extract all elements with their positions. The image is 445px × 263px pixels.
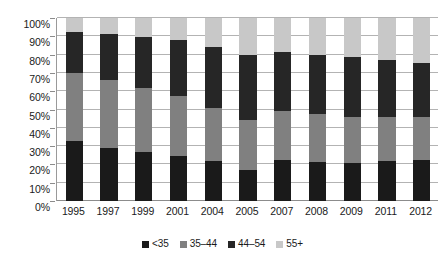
legend-item[interactable]: 35–44: [180, 239, 217, 249]
bar-segment: [170, 156, 187, 201]
stacked-bar-chart: 100%90%80%70%60%50%40%30%20%10%0% 199519…: [0, 0, 445, 263]
bar-segment: [205, 108, 222, 161]
legend-swatch-icon: [228, 241, 235, 248]
legend-swatch-icon: [142, 241, 149, 248]
bar-stack: [274, 18, 291, 201]
y-axis-tick-mark: [50, 183, 55, 184]
bar-column: [205, 18, 222, 201]
y-axis-tick-mark: [50, 128, 55, 129]
y-axis-tick-mark: [50, 73, 55, 74]
bar-segment: [100, 18, 117, 34]
legend-item[interactable]: <35: [142, 239, 169, 249]
bar-segment: [135, 37, 152, 87]
y-axis-labels: 100%90%80%70%60%50%40%30%20%10%0%: [0, 18, 50, 201]
bar-segment: [378, 117, 395, 161]
y-axis-tick-mark: [50, 146, 55, 147]
bar-segment: [309, 55, 326, 114]
bar-segment: [66, 32, 83, 73]
legend-swatch-icon: [276, 241, 283, 248]
x-axis-tick-label: 1999: [125, 205, 160, 217]
x-axis-tick-label: 2007: [264, 205, 299, 217]
bar-segment: [413, 160, 430, 201]
x-axis-tick-label: 2012: [403, 205, 438, 217]
x-axis-tick-label: 1995: [56, 205, 91, 217]
bar-segment: [344, 117, 361, 163]
bar-segment: [100, 34, 117, 80]
bar-segment: [205, 18, 222, 47]
bar-column: [413, 18, 430, 201]
bar-segment: [274, 52, 291, 111]
bar-stack: [239, 18, 256, 201]
bar-stack: [170, 18, 187, 201]
legend-item-label: 44–54: [238, 239, 265, 249]
bar-segment: [309, 162, 326, 201]
bar-segment: [344, 57, 361, 116]
x-axis-tick-label: 2008: [299, 205, 334, 217]
bar-segment: [66, 73, 83, 141]
x-axis-tick-label: 2011: [369, 205, 404, 217]
bar-segment: [170, 40, 187, 96]
bar-stack: [378, 18, 395, 201]
bar-column: [378, 18, 395, 201]
bar-stack: [344, 18, 361, 201]
bar-segment: [100, 80, 117, 148]
bar-column: [135, 18, 152, 201]
bar-column: [239, 18, 256, 201]
bar-column: [274, 18, 291, 201]
x-axis-labels: 1995199719992001200420052007200820092011…: [56, 205, 438, 223]
bar-segment: [378, 18, 395, 60]
bar-segment: [413, 63, 430, 117]
legend-swatch-icon: [180, 241, 187, 248]
bar-segment: [170, 96, 187, 156]
bar-segment: [274, 18, 291, 52]
bar-stack: [66, 18, 83, 201]
y-axis-tick-mark: [50, 55, 55, 56]
y-axis-tick-mark: [50, 18, 55, 19]
bar-segment: [239, 18, 256, 55]
plot-area: [56, 18, 438, 201]
legend-item-label: 55+: [286, 239, 303, 249]
legend-item[interactable]: 55+: [276, 239, 303, 249]
legend-item-label: 35–44: [190, 239, 217, 249]
bar-segment: [135, 88, 152, 152]
y-axis-tick-mark: [50, 110, 55, 111]
bar-segment: [344, 18, 361, 57]
bar-segment: [239, 170, 256, 201]
bar-segment: [100, 148, 117, 201]
bar-segment: [170, 18, 187, 40]
bar-stack: [100, 18, 117, 201]
bar-segment: [378, 161, 395, 201]
bar-segment: [66, 18, 83, 32]
chart-legend: <3535–4444–5455+: [0, 239, 445, 249]
bar-column: [309, 18, 326, 201]
bar-segment: [239, 55, 256, 121]
bar-segment: [274, 160, 291, 201]
y-axis-tick-mark: [50, 91, 55, 92]
legend-item[interactable]: 44–54: [228, 239, 265, 249]
bar-segment: [66, 141, 83, 201]
bar-segment: [239, 120, 256, 169]
bar-segment: [205, 161, 222, 201]
x-axis-tick-label: 2004: [195, 205, 230, 217]
x-axis-tick-label: 2001: [160, 205, 195, 217]
y-axis-tick-mark: [50, 201, 55, 202]
x-axis-tick-label: 1997: [91, 205, 126, 217]
bar-column: [66, 18, 83, 201]
bar-segment: [309, 114, 326, 162]
bar-column: [344, 18, 361, 201]
legend-item-label: <35: [152, 239, 169, 249]
bar-stack: [413, 18, 430, 201]
y-axis-tick-mark: [50, 164, 55, 165]
bar-segment: [205, 47, 222, 107]
x-axis-tick-label: 2005: [230, 205, 265, 217]
bar-column: [170, 18, 187, 201]
bar-segment: [135, 18, 152, 37]
bar-segment: [309, 18, 326, 55]
bar-segment: [344, 163, 361, 201]
bar-segment: [413, 18, 430, 63]
bars-layer: [57, 18, 438, 201]
bar-segment: [274, 111, 291, 159]
bar-segment: [135, 152, 152, 201]
bar-segment: [413, 117, 430, 160]
bar-stack: [309, 18, 326, 201]
